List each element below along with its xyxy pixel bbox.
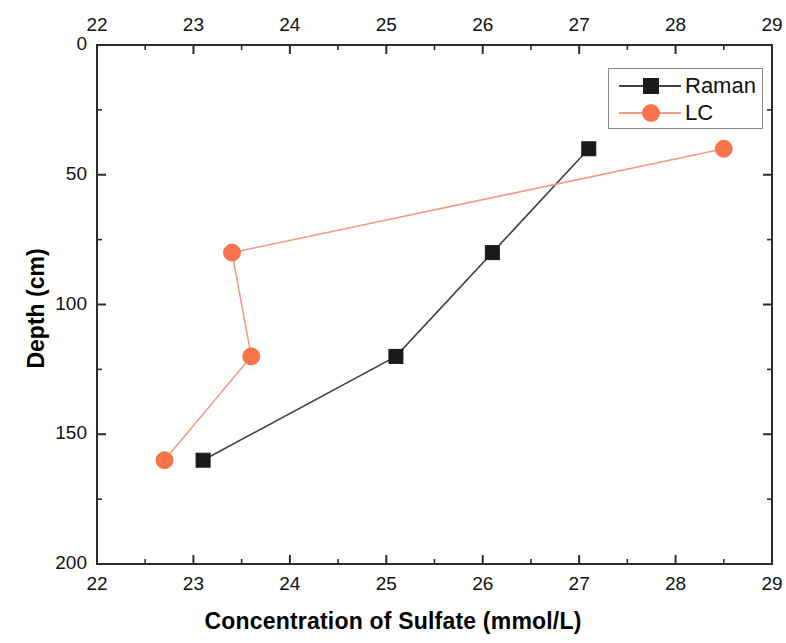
legend-item-raman: Raman	[609, 73, 762, 99]
chart-figure: Concentration of Sulfate (mmol/L) Depth …	[0, 0, 786, 643]
x-axis-label: Concentration of Sulfate (mmol/L)	[0, 608, 786, 635]
data-point-marker	[485, 246, 499, 260]
x-tick-label-top: 27	[549, 14, 609, 36]
x-tick-label-top: 29	[742, 14, 786, 36]
legend: Raman LC	[608, 68, 763, 129]
legend-label-lc: LC	[685, 100, 713, 126]
x-tick-label-bottom: 25	[356, 573, 416, 595]
data-point-marker	[224, 244, 241, 261]
y-tick-label: 50	[27, 163, 87, 185]
data-point-marker	[156, 452, 173, 469]
x-tick-label-bottom: 29	[742, 573, 786, 595]
x-tick-label-top: 23	[163, 14, 223, 36]
legend-label-raman: Raman	[685, 73, 756, 99]
x-tick-label-bottom: 24	[260, 573, 320, 595]
x-tick-label-top: 26	[453, 14, 513, 36]
series-raman	[196, 142, 596, 467]
x-tick-label-bottom: 22	[67, 573, 127, 595]
data-point-marker	[582, 142, 596, 156]
x-tick-label-bottom: 23	[163, 573, 223, 595]
y-tick-label: 200	[27, 552, 87, 574]
data-point-marker	[389, 349, 403, 363]
x-tick-label-top: 25	[356, 14, 416, 36]
data-point-marker	[243, 348, 260, 365]
x-tick-label-top: 28	[646, 14, 706, 36]
y-tick-label: 0	[27, 33, 87, 55]
data-point-marker	[196, 453, 210, 467]
y-tick-label: 100	[27, 293, 87, 315]
x-tick-label-top: 24	[260, 14, 320, 36]
y-tick-label: 150	[27, 422, 87, 444]
data-point-marker	[715, 140, 732, 157]
x-tick-label-bottom: 27	[549, 573, 609, 595]
legend-item-lc: LC	[609, 100, 762, 126]
legend-swatch-lc-icon	[615, 100, 685, 126]
x-tick-label-bottom: 28	[646, 573, 706, 595]
x-tick-label-bottom: 26	[453, 573, 513, 595]
legend-swatch-raman-icon	[615, 73, 685, 99]
